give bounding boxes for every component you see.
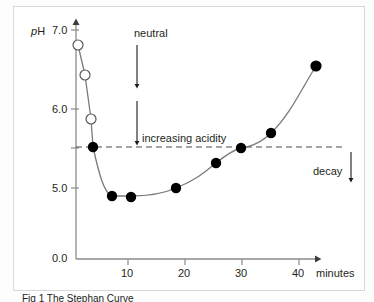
x-axis-ticks bbox=[128, 259, 299, 265]
data-point-open bbox=[80, 70, 90, 80]
stephan-curve-path bbox=[78, 45, 316, 196]
data-point-open bbox=[73, 40, 83, 50]
data-point-filled bbox=[126, 192, 136, 202]
data-point-filled bbox=[88, 142, 98, 152]
y-axis-ticks bbox=[71, 30, 79, 188]
data-point-filled bbox=[211, 158, 221, 168]
data-point-open bbox=[86, 114, 96, 124]
data-point-filled bbox=[310, 60, 321, 71]
data-point-filled bbox=[107, 191, 117, 201]
data-point-filled bbox=[171, 183, 181, 193]
data-point-filled bbox=[266, 128, 276, 138]
figure-page: pH 7.0 6.0 5.0 0.0 10 20 30 40 minutes n… bbox=[0, 0, 374, 302]
axis-group bbox=[71, 22, 318, 265]
chart-svg bbox=[0, 0, 374, 302]
data-point-filled bbox=[236, 143, 246, 153]
